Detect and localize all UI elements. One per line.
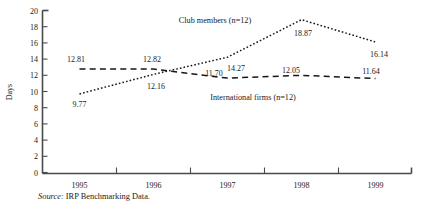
line-chart: 20 18 16 14 12 10 8 6 4 2 0 Days 1995 19… [0, 0, 427, 211]
series-line-club-members [80, 20, 376, 94]
y-tick-label-16: 16 [30, 39, 38, 48]
x-tick-label-1996: 1996 [146, 181, 162, 190]
x-tick-label-1998: 1998 [294, 181, 310, 190]
y-axis-title: Days [5, 84, 14, 100]
y-tick-label-18: 18 [30, 23, 38, 32]
x-tick-label-1997: 1997 [220, 181, 236, 190]
y-tick-label-12: 12 [30, 71, 38, 80]
point-label-club-1997: 14.27 [227, 64, 245, 73]
source-text: IRP Benchmarking Data. [66, 192, 150, 201]
y-tick-label-4: 4 [34, 136, 38, 145]
y-tick-label-2: 2 [34, 152, 38, 161]
series-annotation-international-firms: International firms (n=12) [210, 93, 296, 102]
point-label-intl-1996: 12.82 [143, 55, 161, 64]
series-annotation-club-members: Club members (n=12) [179, 16, 252, 25]
source-prefix: Source: [38, 192, 64, 201]
point-label-intl-1999: 11.64 [362, 67, 380, 76]
x-tick-label-1995: 1995 [72, 181, 88, 190]
point-label-club-1998: 18.87 [294, 29, 312, 38]
figure-container: 20 18 16 14 12 10 8 6 4 2 0 Days 1995 19… [0, 0, 427, 211]
y-tick-label-6: 6 [34, 120, 38, 129]
source-note: Source: IRP Benchmarking Data. [38, 192, 150, 201]
point-label-intl-1998: 12.05 [282, 66, 300, 75]
point-label-club-1996: 12.16 [147, 82, 165, 91]
y-tick-label-0: 0 [34, 169, 38, 178]
point-label-intl-1997: 11.70 [205, 69, 223, 78]
x-tick-marks [117, 168, 339, 174]
x-tick-label-1999: 1999 [368, 181, 384, 190]
y-tick-label-20: 20 [30, 7, 38, 16]
point-label-club-1999: 16.14 [370, 50, 388, 59]
y-tick-label-14: 14 [30, 55, 38, 64]
y-tick-label-10: 10 [30, 88, 38, 97]
point-label-intl-1995: 12.81 [67, 55, 85, 64]
y-tick-label-8: 8 [34, 104, 38, 113]
point-label-club-1995: 9.77 [73, 100, 87, 109]
